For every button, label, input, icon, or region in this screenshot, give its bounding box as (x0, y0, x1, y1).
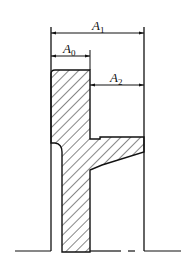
technical-drawing: A1 A0 A2 (0, 0, 195, 270)
svg-text:A0: A0 (62, 41, 76, 58)
dimension-a0: A0 (51, 41, 90, 58)
hatched-section (51, 70, 144, 252)
dimension-a1: A1 (51, 18, 144, 35)
dimension-a2: A2 (90, 70, 144, 87)
svg-text:A1: A1 (91, 18, 104, 35)
svg-text:A2: A2 (109, 70, 122, 87)
